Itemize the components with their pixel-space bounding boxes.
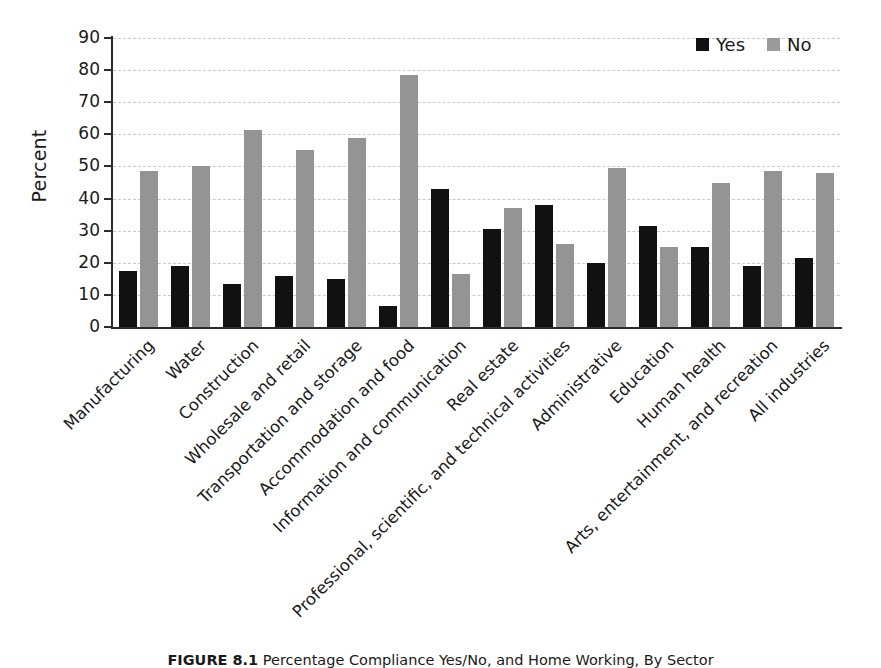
y-tick-label-40: 40 [56,190,100,207]
bar-yes[interactable] [639,226,657,327]
bar-yes[interactable] [223,284,241,327]
bar-no[interactable] [816,173,834,327]
y-tick-label-0: 0 [56,318,100,335]
bar-group [321,38,373,327]
bar-group [788,38,840,327]
y-axis-title: Percent [28,96,50,236]
bar-yes[interactable] [275,276,293,327]
bar-no[interactable] [764,171,782,327]
bar-yes[interactable] [691,247,709,327]
plot-area [113,38,840,327]
y-tick-mark-60 [104,133,112,135]
figure-number: FIGURE 8.1 [167,652,258,668]
legend-label-no: No [787,34,811,55]
y-tick-mark-30 [104,230,112,232]
y-tick-label-50: 50 [56,157,100,174]
x-axis-label: Information and communication [269,336,470,537]
bar-group [269,38,321,327]
bar-yes[interactable] [379,306,397,327]
bar-group [425,38,477,327]
bar-no[interactable] [712,183,730,328]
bar-yes[interactable] [483,229,501,327]
y-tick-mark-40 [104,198,112,200]
y-tick-mark-80 [104,69,112,71]
y-tick-mark-0 [104,326,112,328]
bar-group [217,38,269,327]
bar-no[interactable] [660,247,678,327]
bar-no[interactable] [348,138,366,327]
y-tick-mark-50 [104,165,112,167]
y-tick-mark-90 [104,37,112,39]
figure-caption-text: Percentage Compliance Yes/No, and Home W… [263,652,714,668]
bar-no[interactable] [504,208,522,327]
x-axis-line [111,327,842,329]
bar-yes[interactable] [431,189,449,327]
x-axis-label: Water [162,336,210,384]
bar-no[interactable] [400,75,418,327]
bar-no[interactable] [140,171,158,327]
bar-group [373,38,425,327]
bar-yes[interactable] [795,258,813,327]
bar-group [736,38,788,327]
legend-item-yes[interactable]: Yes [696,34,745,55]
bar-yes[interactable] [587,263,605,327]
bar-no[interactable] [244,130,262,327]
y-tick-mark-10 [104,294,112,296]
bar-group [165,38,217,327]
bar-group [632,38,684,327]
bar-group [113,38,165,327]
bar-yes[interactable] [743,266,761,327]
bar-no[interactable] [452,274,470,327]
bar-yes[interactable] [535,205,553,327]
y-tick-label-30: 30 [56,222,100,239]
bar-group [477,38,529,327]
legend-item-no[interactable]: No [767,34,811,55]
y-tick-mark-70 [104,101,112,103]
bar-no[interactable] [192,166,210,327]
x-axis-label: Administrative [527,336,625,434]
y-tick-label-20: 20 [56,254,100,271]
y-axis-line [111,36,113,329]
bar-yes[interactable] [171,266,189,327]
bar-yes[interactable] [119,271,137,327]
y-tick-label-10: 10 [56,286,100,303]
y-tick-mark-20 [104,262,112,264]
legend-label-yes: Yes [716,34,745,55]
bar-yes[interactable] [327,279,345,327]
bar-no[interactable] [556,244,574,327]
y-tick-label-70: 70 [56,93,100,110]
figure-caption: FIGURE 8.1 Percentage Compliance Yes/No,… [0,652,881,668]
bar-group [528,38,580,327]
y-tick-label-60: 60 [56,125,100,142]
y-tick-label-80: 80 [56,61,100,78]
bar-no[interactable] [608,168,626,327]
y-tick-label-90: 90 [56,29,100,46]
chart-legend: Yes No [696,34,812,55]
y-axis-tick-labels: 0102030405060708090 [0,0,100,668]
legend-swatch-no-icon [767,38,780,51]
bar-group [684,38,736,327]
legend-swatch-yes-icon [696,38,709,51]
bar-group [580,38,632,327]
figure-container: 0102030405060708090 Percent Manufacturin… [0,0,881,668]
bar-no[interactable] [296,150,314,327]
